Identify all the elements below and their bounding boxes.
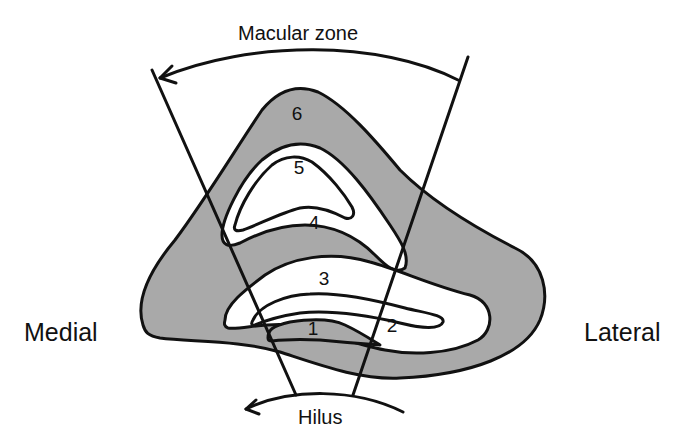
retina-zone-diagram (0, 0, 684, 442)
region-4-label: 4 (309, 212, 320, 234)
hilus-label: Hilus (298, 406, 342, 429)
macular-zone-arc (160, 50, 458, 80)
region-1-label: 1 (308, 318, 319, 340)
region-2-label: 2 (387, 315, 398, 337)
region-3-label: 3 (319, 268, 330, 290)
region-6-label: 6 (292, 103, 303, 125)
lateral-label: Lateral (584, 318, 660, 347)
region-5-label: 5 (294, 157, 305, 179)
macular-zone-label: Macular zone (238, 22, 358, 45)
diagram-canvas: Macular zone Hilus Medial Lateral 6 5 4 … (0, 0, 684, 442)
medial-label: Medial (24, 318, 98, 347)
